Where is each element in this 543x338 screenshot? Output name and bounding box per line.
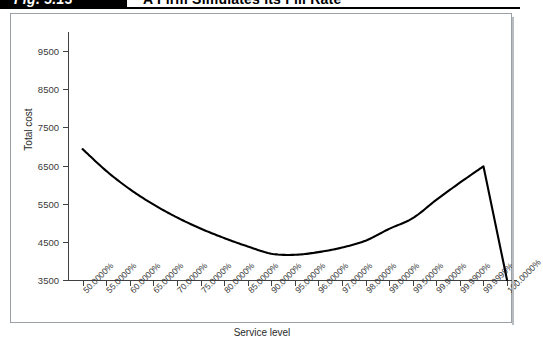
chart-frame: Total cost 3500450055006500750085009500 … — [10, 13, 512, 323]
figure-title: A Firm Simulates Its Fill Rate — [143, 0, 341, 7]
total-cost-curve — [11, 14, 513, 324]
x-axis-title: Service level — [11, 327, 513, 338]
figure-header: Fig. 5.13 A Firm Simulates Its Fill Rate — [0, 0, 520, 9]
header-divider — [0, 7, 520, 9]
figure-number-tag: Fig. 5.13 — [0, 0, 127, 7]
